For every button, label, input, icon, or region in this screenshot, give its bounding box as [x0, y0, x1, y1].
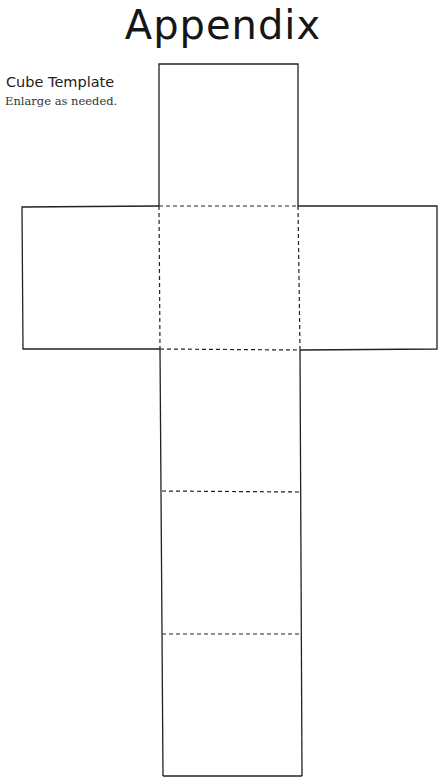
cube-net-template: [0, 0, 446, 779]
fold-lines: [159, 206, 301, 634]
cut-lines: [22, 64, 437, 776]
